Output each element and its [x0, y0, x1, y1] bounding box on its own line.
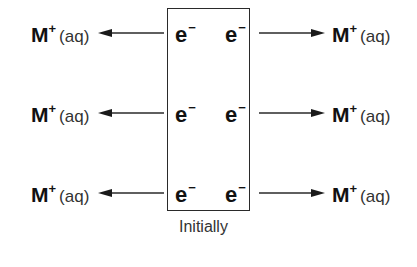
electron-symbol: e	[175, 182, 187, 207]
ion-state: (aq)	[59, 187, 89, 206]
arrow-right-icon	[259, 187, 325, 199]
ion-symbol: M	[332, 103, 350, 126]
electron-row-2-right: e−	[225, 104, 246, 126]
ion-left-row-3: M+(aq)	[31, 184, 89, 205]
electron-row-2-left: e−	[175, 104, 196, 126]
arrow-left-icon	[98, 107, 164, 119]
electron-symbol: e	[175, 102, 187, 127]
ion-symbol: M	[31, 23, 49, 46]
arrow-right-icon	[259, 107, 325, 119]
ion-state: (aq)	[360, 187, 390, 206]
electron-symbol: e	[225, 182, 237, 207]
electron-row-3-left: e−	[175, 184, 196, 206]
ion-charge: +	[49, 181, 57, 196]
electron-row-3-right: e−	[225, 184, 246, 206]
electron-charge: −	[188, 20, 196, 35]
ion-right-row-3: M+(aq)	[332, 184, 390, 205]
ion-left-row-1: M+(aq)	[31, 24, 89, 45]
ion-state: (aq)	[360, 27, 390, 46]
ion-charge: +	[49, 21, 57, 36]
electron-row-1-right: e−	[225, 24, 246, 46]
ion-left-row-2: M+(aq)	[31, 104, 89, 125]
electron-charge: −	[238, 180, 246, 195]
electron-charge: −	[238, 100, 246, 115]
electron-symbol: e	[225, 22, 237, 47]
ion-symbol: M	[332, 23, 350, 46]
arrow-right-icon	[259, 27, 325, 39]
ion-symbol: M	[31, 103, 49, 126]
arrow-left-icon	[98, 27, 164, 39]
arrow-left-icon	[98, 187, 164, 199]
ion-state: (aq)	[59, 27, 89, 46]
ion-charge: +	[350, 101, 358, 116]
ion-symbol: M	[31, 183, 49, 206]
ion-charge: +	[350, 181, 358, 196]
electron-symbol: e	[225, 102, 237, 127]
electron-charge: −	[188, 100, 196, 115]
electron-charge: −	[238, 20, 246, 35]
ion-charge: +	[49, 101, 57, 116]
ion-right-row-2: M+(aq)	[332, 104, 390, 125]
ion-symbol: M	[332, 183, 350, 206]
electron-row-1-left: e−	[175, 24, 196, 46]
ion-state: (aq)	[59, 107, 89, 126]
diagram-caption: Initially	[179, 218, 228, 236]
ion-state: (aq)	[360, 107, 390, 126]
electron-charge: −	[188, 180, 196, 195]
ion-charge: +	[350, 21, 358, 36]
ion-right-row-1: M+(aq)	[332, 24, 390, 45]
electron-symbol: e	[175, 22, 187, 47]
